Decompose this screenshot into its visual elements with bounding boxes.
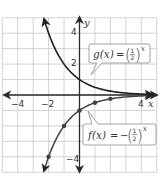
f-callout-rparen: ) xyxy=(137,127,143,145)
f-callout-num: 1 xyxy=(133,127,137,134)
g-callout-name: g(x) xyxy=(93,48,114,60)
data-point xyxy=(77,108,81,112)
y-axis-label: y xyxy=(83,17,90,28)
g-callout: g(x) = ( 1 2 ) x xyxy=(89,44,150,75)
x-axis-label: x xyxy=(148,98,154,109)
f-callout: f(x) = − ( 1 2 ) x xyxy=(83,111,156,145)
x-tick-4: 4 xyxy=(138,99,144,109)
g-callout-den: 2 xyxy=(131,54,135,61)
g-callout-equals: = xyxy=(116,49,124,60)
y-tick-2: 2 xyxy=(71,58,77,68)
data-point xyxy=(93,101,97,105)
g-callout-exp: x xyxy=(141,45,145,53)
y-tick-4: 4 xyxy=(71,27,77,37)
f-callout-equals: = xyxy=(110,130,118,141)
g-callout-rparen: ) xyxy=(135,46,141,64)
x-tick-neg4: −4 xyxy=(11,99,25,109)
f-callout-den: 2 xyxy=(133,135,137,142)
x-tick-neg2: −2 xyxy=(41,99,54,109)
data-point xyxy=(46,155,50,159)
g-callout-num: 1 xyxy=(131,47,135,54)
f-callout-exp: x xyxy=(143,125,147,133)
data-point xyxy=(108,97,112,101)
y-tick-neg4: −4 xyxy=(66,154,80,164)
data-point xyxy=(62,124,66,128)
exponential-graph: −4 −2 4 x 4 2 −4 y g(x) = ( 1 2 ) x f(x)… xyxy=(0,0,162,176)
f-callout-name: f(x) xyxy=(87,129,106,141)
